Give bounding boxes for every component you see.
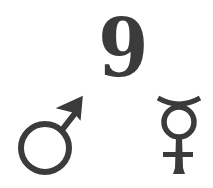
- mars-icon: [21, 97, 82, 172]
- mercury-icon: [158, 98, 200, 174]
- symbols-canvas: [0, 0, 213, 188]
